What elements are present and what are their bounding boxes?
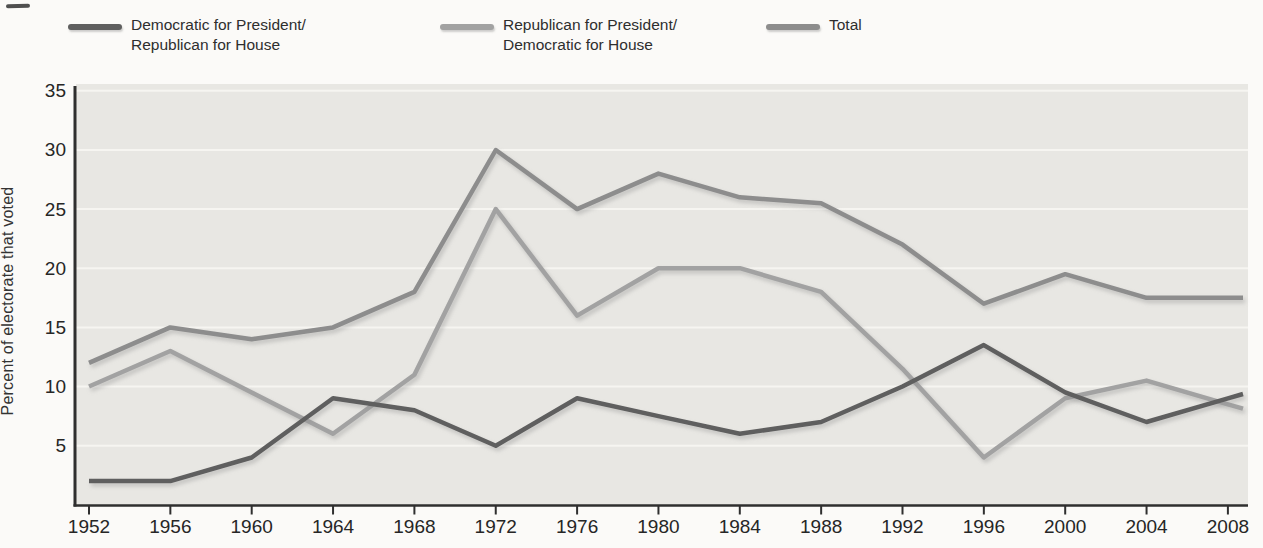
x-tick-label-1996: 1996 <box>963 516 1005 537</box>
x-tick-label-1964: 1964 <box>312 516 355 537</box>
y-tick-label-25: 25 <box>45 199 66 220</box>
x-tick-label-1980: 1980 <box>637 516 679 537</box>
x-tick-label-2008: 2008 <box>1207 516 1249 537</box>
x-tick-label-1984: 1984 <box>719 516 762 537</box>
y-tick-label-15: 15 <box>45 317 66 338</box>
y-tick-label-10: 10 <box>45 376 66 397</box>
x-tick-label-1992: 1992 <box>881 516 923 537</box>
plot-area: 3530252015105195219561960196419681972197… <box>0 0 1263 548</box>
plot-background <box>76 84 1248 506</box>
x-tick-label-1952: 1952 <box>68 516 110 537</box>
y-tick-label-35: 35 <box>45 80 66 101</box>
y-tick-label-5: 5 <box>55 435 66 456</box>
x-tick-label-1968: 1968 <box>393 516 435 537</box>
x-tick-label-2004: 2004 <box>1125 516 1168 537</box>
x-tick-label-1972: 1972 <box>475 516 517 537</box>
x-tick-label-1988: 1988 <box>800 516 842 537</box>
x-tick-label-1960: 1960 <box>231 516 273 537</box>
y-tick-label-30: 30 <box>45 139 66 160</box>
ticket-splitting-chart-figure: Democratic for President/ Republican for… <box>0 0 1263 548</box>
y-tick-label-20: 20 <box>45 258 66 279</box>
x-tick-label-2000: 2000 <box>1044 516 1086 537</box>
x-tick-label-1976: 1976 <box>556 516 598 537</box>
x-tick-label-1956: 1956 <box>149 516 191 537</box>
